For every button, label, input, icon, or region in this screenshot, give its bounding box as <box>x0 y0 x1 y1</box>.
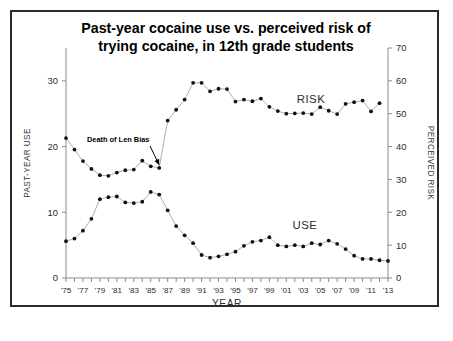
data-point <box>217 87 221 91</box>
axes <box>66 48 388 278</box>
data-point <box>115 195 119 199</box>
cocaine-use-vs-risk-chart: Past-year cocaine use vs. perceived risk… <box>0 0 453 341</box>
data-point <box>293 243 297 247</box>
data-point <box>276 243 280 247</box>
data-point <box>98 173 102 177</box>
x-tick-label: '95 <box>230 286 241 295</box>
data-point <box>217 254 221 258</box>
data-point <box>208 89 212 93</box>
data-point <box>191 81 195 85</box>
data-point <box>183 233 187 237</box>
data-point <box>106 195 110 199</box>
data-point <box>327 239 331 243</box>
data-point <box>361 257 365 261</box>
data-point <box>208 256 212 260</box>
data-point <box>191 241 195 245</box>
data-point <box>81 229 85 233</box>
right-tick-label: 0 <box>396 272 401 283</box>
x-tick-label: '83 <box>129 286 140 295</box>
x-tick-label: '97 <box>247 286 258 295</box>
data-point <box>284 245 288 249</box>
chart-title-line2: trying cocaine, in 12th grade students <box>98 38 354 54</box>
series-use <box>64 190 390 263</box>
data-point <box>140 200 144 204</box>
left-tick-label: 30 <box>48 75 58 86</box>
data-point <box>183 98 187 102</box>
data-point <box>259 239 263 243</box>
annotation-len-bias: Death of Len Bias <box>87 135 159 165</box>
x-tick-label: '99 <box>264 286 275 295</box>
data-point <box>90 217 94 221</box>
data-point <box>234 250 238 254</box>
data-point <box>242 244 246 248</box>
data-point <box>310 112 314 116</box>
right-tick-label: 60 <box>396 75 406 86</box>
data-point <box>98 197 102 201</box>
x-tick-label: '87 <box>162 286 173 295</box>
x-tick-label: '13 <box>383 286 394 295</box>
data-point <box>81 159 85 163</box>
data-point <box>369 257 373 261</box>
data-point <box>64 239 68 243</box>
data-point <box>149 164 153 168</box>
x-tick-label: '77 <box>78 286 89 295</box>
data-point <box>318 243 322 247</box>
x-tick-label: '07 <box>332 286 343 295</box>
data-point <box>251 240 255 244</box>
left-tick-label: 10 <box>48 207 58 218</box>
x-tick-label: '11 <box>366 286 376 295</box>
data-point <box>115 171 119 175</box>
data-point <box>251 99 255 103</box>
data-point <box>157 166 161 170</box>
series-label-risk: RISK <box>297 93 326 105</box>
x-tick-label: '89 <box>179 286 190 295</box>
data-point <box>327 109 331 113</box>
data-point <box>90 167 94 171</box>
data-point <box>140 159 144 163</box>
data-point <box>149 190 153 194</box>
data-point <box>378 258 382 262</box>
x-tick-label: '01 <box>281 286 292 295</box>
data-point <box>344 102 348 106</box>
data-point <box>386 259 390 263</box>
data-point <box>123 168 127 172</box>
data-point <box>174 224 178 228</box>
data-point <box>352 254 356 258</box>
series-line <box>66 83 380 176</box>
series-risk <box>64 81 381 178</box>
x-tick-label: '03 <box>298 286 309 295</box>
data-point <box>352 100 356 104</box>
right-axis-label: PERCEIVED RISK <box>426 126 435 200</box>
data-point <box>73 237 77 241</box>
data-point <box>301 111 305 115</box>
data-point <box>284 112 288 116</box>
data-point <box>234 100 238 104</box>
data-point <box>123 201 127 205</box>
data-point <box>200 253 204 257</box>
right-tick-label: 30 <box>396 174 406 185</box>
data-point <box>335 242 339 246</box>
data-point <box>301 245 305 249</box>
chart-title-line1: Past-year cocaine use vs. perceived risk… <box>81 20 371 36</box>
x-tick-label: '91 <box>196 286 207 295</box>
right-tick-label: 70 <box>396 42 406 53</box>
data-point <box>174 108 178 112</box>
left-tick-label: 20 <box>48 141 58 152</box>
x-axis-label: YEAR <box>212 298 242 309</box>
data-point <box>225 252 229 256</box>
left-tick-label: 0 <box>53 272 58 283</box>
data-point <box>259 97 263 101</box>
x-tick-label: '05 <box>315 286 326 295</box>
right-tick-label: 40 <box>396 141 406 152</box>
data-point <box>276 109 280 113</box>
data-point <box>242 98 246 102</box>
x-tick-label: '85 <box>145 286 156 295</box>
left-axis-ticks: 0102030 <box>48 75 66 283</box>
x-tick-label: '93 <box>213 286 224 295</box>
right-tick-label: 20 <box>396 207 406 218</box>
data-point <box>267 235 271 239</box>
data-point <box>166 208 170 212</box>
right-axis-ticks: 010203040506070 <box>388 42 406 283</box>
data-point <box>225 87 229 91</box>
chart-canvas: Past-year cocaine use vs. perceived risk… <box>0 0 453 341</box>
